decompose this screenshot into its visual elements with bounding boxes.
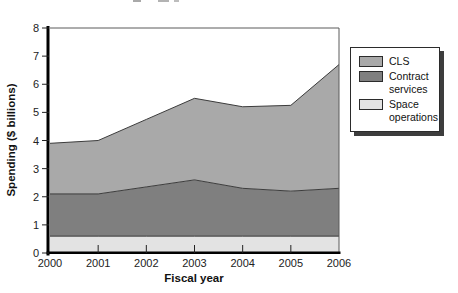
cropped-text-remnant — [174, 0, 179, 2]
legend-item-cls: CLS — [359, 55, 435, 68]
x-tick-label: 2005 — [279, 257, 303, 269]
legend-label: Space operations — [389, 98, 438, 124]
plot-area: 0123456782000200120022003200420052006 — [0, 0, 458, 293]
x-tick-label: 2001 — [86, 257, 110, 269]
x-axis-title: Fiscal year — [164, 272, 223, 284]
legend: CLS Contract services Space operations — [350, 47, 440, 132]
x-tick-label: 2000 — [38, 257, 62, 269]
cropped-text-remnant — [133, 0, 141, 2]
legend-label: CLS — [389, 55, 435, 68]
x-axis-line — [47, 252, 341, 255]
y-tick-label: 8 — [33, 22, 39, 34]
stacked-area-chart-figure: 0123456782000200120022003200420052006 Sp… — [0, 0, 458, 293]
area-band-cls — [50, 65, 339, 194]
legend-item-contract-services: Contract services — [359, 70, 435, 96]
x-tick-label: 2006 — [327, 257, 351, 269]
legend-item-space-operations: Space operations — [359, 98, 435, 124]
y-tick-label: 6 — [33, 78, 39, 90]
y-tick-label: 7 — [33, 50, 39, 62]
cls-swatch-icon — [359, 56, 383, 67]
y-tick-label: 5 — [33, 106, 39, 118]
x-tick-label: 2003 — [182, 257, 206, 269]
legend-label: Contract services — [389, 70, 435, 96]
y-tick-label: 2 — [33, 191, 39, 203]
y-axis-title: Spending ($ billions) — [5, 83, 17, 196]
cropped-text-remnant — [158, 0, 169, 2]
y-tick-label: 4 — [33, 135, 39, 147]
space-operations-swatch-icon — [359, 99, 383, 110]
contract-services-swatch-icon — [359, 71, 383, 82]
y-tick-label: 1 — [33, 219, 39, 231]
y-tick-label: 3 — [33, 163, 39, 175]
x-tick-label: 2002 — [134, 257, 158, 269]
x-tick-label: 2004 — [230, 257, 254, 269]
